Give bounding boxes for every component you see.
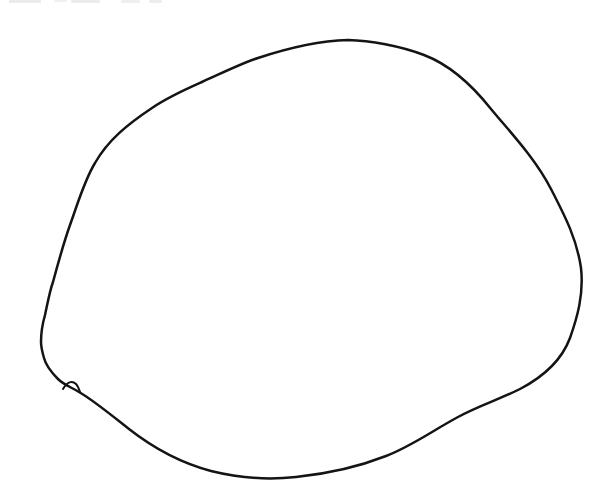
scanned-page [0, 0, 608, 496]
oval-outline-stroke [41, 40, 582, 478]
freehand-oval-drawing [0, 0, 608, 496]
